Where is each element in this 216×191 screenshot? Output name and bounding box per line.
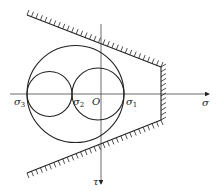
mohr-circle-diagram: σ3 σ2 O σ1 σ τ (0, 0, 216, 191)
sigma1-label: σ1 (126, 96, 137, 109)
sigma3-label: σ3 (14, 96, 25, 109)
vertical-cutoff-line (161, 64, 166, 120)
diagram-canvas: σ3 σ2 O σ1 σ τ (0, 0, 216, 191)
sigma-axis-label: σ (202, 97, 210, 108)
origin-label: O (92, 96, 100, 107)
upper-envelope-line (27, 10, 163, 67)
tau-axis-label: τ (93, 176, 99, 187)
lower-envelope-line (27, 120, 163, 178)
sigma2-label: σ2 (73, 96, 84, 109)
